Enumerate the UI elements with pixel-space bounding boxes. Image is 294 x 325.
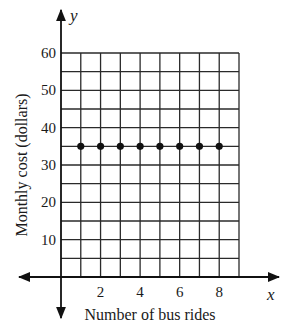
- data-point: [117, 143, 124, 150]
- x-axis-title: Number of bus rides: [84, 306, 215, 323]
- data-point: [137, 143, 144, 150]
- x-tick-label: 2: [97, 284, 105, 300]
- data-point: [216, 143, 223, 150]
- y-tick-labels: 102030405060: [41, 45, 56, 248]
- y-tick-label: 10: [41, 232, 56, 248]
- y-tick-label: 30: [41, 157, 56, 173]
- x-tick-label: 4: [136, 284, 144, 300]
- x-tick-label: 6: [176, 284, 184, 300]
- grid: [61, 53, 239, 277]
- data-point: [176, 143, 183, 150]
- data-point: [97, 143, 104, 150]
- chart: 2468 102030405060 x y Number of bus ride…: [0, 0, 294, 325]
- y-axis-variable: y: [68, 6, 78, 25]
- y-tick-label: 20: [41, 194, 56, 210]
- data-point: [196, 143, 203, 150]
- y-axis-title: Monthly cost (dollars): [13, 93, 31, 236]
- x-tick-label: 8: [215, 284, 223, 300]
- data-point: [77, 143, 84, 150]
- x-tick-labels: 2468: [97, 284, 223, 300]
- axes: [19, 10, 279, 318]
- x-axis-variable: x: [266, 285, 275, 304]
- data-point: [156, 143, 163, 150]
- y-tick-label: 50: [41, 82, 56, 98]
- y-tick-label: 60: [41, 45, 56, 61]
- y-tick-label: 40: [41, 120, 56, 136]
